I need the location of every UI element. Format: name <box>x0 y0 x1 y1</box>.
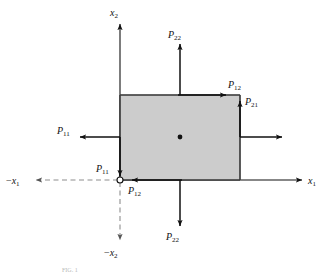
axis-label-x2-negative: −x2 <box>104 247 118 260</box>
stress-label-p12-bottom: P12 <box>127 185 142 198</box>
stress-label-p22-bottom: P22 <box>165 231 180 244</box>
figure-caption: FIG. 1 <box>62 267 78 273</box>
stress-label-p22-top: P22 <box>167 29 182 42</box>
stress-element-diagram: x2 x1 −x1 −x2 P22 P12 P21 P11 <box>0 0 334 276</box>
figure-container: x2 x1 −x1 −x2 P22 P12 P21 P11 <box>0 0 334 276</box>
stress-label-p11-left: P11 <box>56 125 70 138</box>
stress-label-p21-right: P21 <box>244 96 259 109</box>
axis-label-x1-positive: x1 <box>307 175 316 188</box>
axis-label-x1-negative: −x1 <box>6 175 20 188</box>
axis-label-x2-positive: x2 <box>109 7 118 20</box>
element-center-dot <box>178 135 183 140</box>
stress-label-p11-origin: P11 <box>95 163 109 176</box>
stress-label-p12-top: P12 <box>227 79 242 92</box>
origin-marker <box>117 177 123 183</box>
